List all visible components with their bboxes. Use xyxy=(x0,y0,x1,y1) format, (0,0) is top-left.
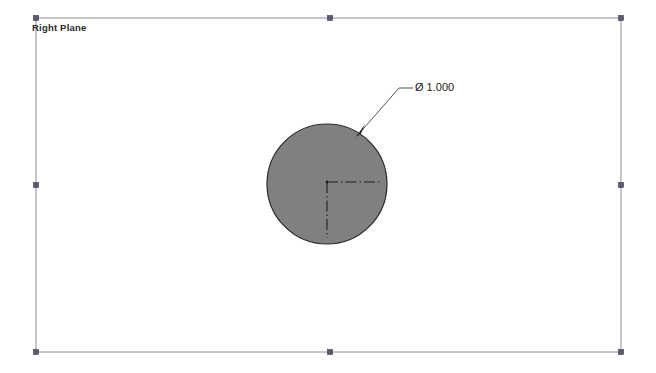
handle-midpoint-left[interactable] xyxy=(34,183,39,188)
cad-sketch-viewport: Right Plane Ø 1.000 xyxy=(0,0,656,373)
handle-corner-top-left[interactable] xyxy=(34,16,39,21)
handle-midpoint-bottom[interactable] xyxy=(328,350,333,355)
center-point[interactable] xyxy=(326,181,329,184)
handle-corner-top-right[interactable] xyxy=(619,16,624,21)
leader-line[interactable] xyxy=(357,88,413,136)
diameter-leader[interactable] xyxy=(356,88,413,137)
diameter-dimension-label[interactable]: Ø 1.000 xyxy=(415,81,454,94)
handle-midpoint-top[interactable] xyxy=(328,16,333,21)
handle-midpoint-right[interactable] xyxy=(619,183,624,188)
handle-corner-bottom-right[interactable] xyxy=(619,350,624,355)
handle-corner-bottom-left[interactable] xyxy=(34,350,39,355)
plane-label[interactable]: Right Plane xyxy=(32,22,86,33)
sketch-canvas[interactable] xyxy=(0,0,656,373)
